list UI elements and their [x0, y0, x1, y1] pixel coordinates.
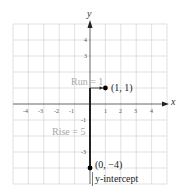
x-axis-label: x	[171, 97, 175, 107]
point-label-0-neg4: (0, −4)	[95, 160, 122, 170]
y-intercept-label: y-intercept	[95, 174, 138, 184]
y-tick: 3	[84, 53, 87, 59]
point-0-neg4	[88, 166, 93, 171]
x-tick: 2	[119, 108, 122, 114]
y-axis-label: y	[87, 9, 91, 19]
run-label: Run = 1	[71, 77, 103, 87]
x-tick: -3	[38, 108, 43, 114]
y-tick: -3	[81, 149, 86, 155]
x-tick: -1	[69, 108, 74, 114]
coordinate-plane	[0, 0, 184, 195]
y-tick: -1	[81, 117, 86, 123]
x-tick: 1	[104, 108, 107, 114]
rise-label: Rise = 5	[52, 127, 85, 137]
x-tick: -4	[23, 108, 28, 114]
x-tick: 4	[150, 108, 153, 114]
point-label-1-1: (1, 1)	[111, 83, 133, 93]
point-1-1	[103, 86, 108, 91]
y-tick: 4	[84, 37, 87, 43]
x-tick: 3	[134, 108, 137, 114]
x-axis-arrow-icon	[162, 102, 169, 107]
x-tick: -2	[54, 108, 59, 114]
